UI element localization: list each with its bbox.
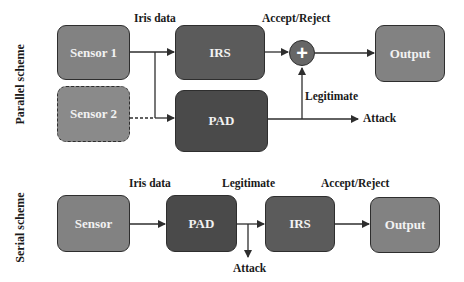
irs-label: IRS xyxy=(289,216,311,232)
iris-data-label-parallel: Iris data xyxy=(134,12,176,24)
output-label: Output xyxy=(390,46,430,62)
accept-reject-label-parallel: Accept/Reject xyxy=(262,12,330,24)
attack-label-serial: Attack xyxy=(233,262,266,274)
irs-box-parallel: IRS xyxy=(175,25,265,80)
irs-label: IRS xyxy=(209,45,231,61)
pad-label: PAD xyxy=(189,216,215,232)
sensor-2-label: Sensor 2 xyxy=(70,106,117,122)
output-box-parallel: Output xyxy=(375,25,445,82)
iris-data-label-serial: Iris data xyxy=(129,177,171,189)
sensor-label: Sensor xyxy=(75,216,113,232)
sensor-1-label: Sensor 1 xyxy=(70,45,117,61)
output-box-serial: Output xyxy=(370,197,440,253)
legitimate-label-serial: Legitimate xyxy=(222,177,275,189)
output-label: Output xyxy=(385,217,425,233)
pad-box-serial: PAD xyxy=(166,195,237,252)
parallel-scheme-title: Parallel scheme xyxy=(13,45,28,125)
attack-label-parallel: Attack xyxy=(363,112,396,124)
irs-box-serial: IRS xyxy=(265,196,335,252)
pad-box-parallel: PAD xyxy=(175,90,268,152)
serial-scheme-title: Serial scheme xyxy=(13,191,28,265)
sensor-1-box: Sensor 1 xyxy=(57,25,130,80)
sensor-box-serial: Sensor xyxy=(57,195,130,252)
sensor-2-box: Sensor 2 xyxy=(57,86,130,142)
pad-label: PAD xyxy=(209,113,235,129)
legitimate-label-parallel: Legitimate xyxy=(305,90,358,102)
plus-combiner-icon: + xyxy=(289,40,315,66)
accept-reject-label-serial: Accept/Reject xyxy=(321,177,389,189)
